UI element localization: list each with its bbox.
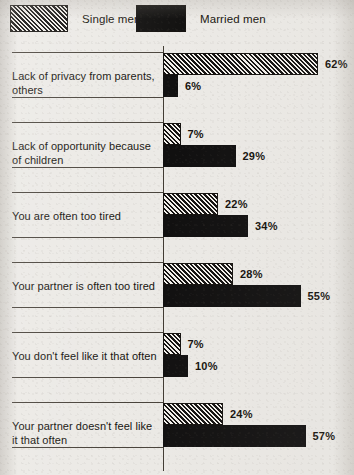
legend-entry-married-men: Married men xyxy=(136,5,266,32)
category-label: Your partner is often too tired xyxy=(12,280,157,294)
solid-swatch-icon xyxy=(136,5,186,32)
row-separator xyxy=(12,377,163,378)
bar-married-men xyxy=(163,425,306,447)
bar-married-men xyxy=(163,285,301,307)
hatched-swatch-icon xyxy=(10,5,68,32)
row-separator xyxy=(12,97,163,98)
bar-married-men xyxy=(163,145,236,167)
legend-label-single-men: Single men xyxy=(82,13,141,25)
legend-label-married-men: Married men xyxy=(200,13,266,25)
bar-value-single-men: 62% xyxy=(325,58,348,70)
legend-entry-single-men: Single men xyxy=(10,5,141,32)
row-separator xyxy=(12,52,163,53)
row-separator xyxy=(12,192,163,193)
bar-value-single-men: 7% xyxy=(188,128,204,140)
bar-value-single-men: 28% xyxy=(240,268,263,280)
row-separator xyxy=(12,307,163,308)
row-separator xyxy=(12,332,163,333)
bar-value-married-men: 57% xyxy=(313,430,336,442)
bar-married-men xyxy=(163,215,248,237)
bar-value-married-men: 6% xyxy=(185,80,201,92)
bar-value-single-men: 7% xyxy=(188,338,204,350)
bar-married-men xyxy=(163,75,178,97)
row-separator xyxy=(12,447,163,448)
bar-single-men xyxy=(163,193,218,215)
bar-chart-figure: Single men Married men Lack of privacy f… xyxy=(0,0,354,475)
bar-single-men xyxy=(163,263,233,285)
bar-value-married-men: 10% xyxy=(195,360,218,372)
bar-single-men xyxy=(163,53,318,75)
category-label: You don't feel like it that often xyxy=(12,350,157,364)
category-label: Lack of privacy from parents, others xyxy=(12,70,157,97)
chart-legend: Single men Married men xyxy=(0,0,354,40)
row-separator xyxy=(12,167,163,168)
row-separator xyxy=(12,402,163,403)
bar-value-married-men: 34% xyxy=(255,220,278,232)
plot-area: Lack of privacy from parents, others62%6… xyxy=(0,44,354,475)
row-separator xyxy=(12,237,163,238)
category-label: Lack of opportunity because of children xyxy=(12,140,157,167)
bar-value-married-men: 29% xyxy=(243,150,266,162)
bar-value-single-men: 22% xyxy=(225,198,248,210)
row-separator xyxy=(12,122,163,123)
category-label: You are often too tired xyxy=(12,210,157,224)
bar-single-men xyxy=(163,403,223,425)
bar-value-married-men: 55% xyxy=(308,290,331,302)
bar-single-men xyxy=(163,123,181,145)
bar-single-men xyxy=(163,333,181,355)
category-label: Your partner doesn't feel like it that o… xyxy=(12,420,157,447)
bar-married-men xyxy=(163,355,188,377)
bar-value-single-men: 24% xyxy=(230,408,253,420)
row-separator xyxy=(12,262,163,263)
